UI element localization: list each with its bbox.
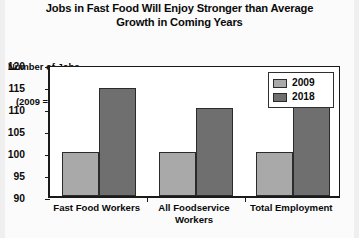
x-axis-label-total-employment: Total Employment [243, 202, 340, 214]
chart-title-line-2: Growth in Coming Years [0, 16, 359, 30]
bar-2018-all-foodservice-workers [196, 108, 233, 196]
bar-2009-all-foodservice-workers [159, 152, 196, 196]
legend-item-2018: 2018 [273, 90, 329, 104]
y-tick-label-100: 100 [0, 150, 25, 160]
legend-item-2009: 2009 [273, 76, 329, 90]
legend-label-2018: 2018 [292, 92, 315, 102]
x-axis-label-line: Fast Food Workers [48, 202, 145, 214]
y-tick-label-95: 95 [0, 172, 25, 182]
y-tick-label-105: 105 [0, 128, 25, 138]
bar-2018-fast-food-workers [99, 88, 136, 196]
legend-swatch-2018 [273, 93, 287, 102]
bar-2009-fast-food-workers [62, 152, 99, 196]
y-tick-90 [45, 199, 50, 200]
legend: 2009 2018 [268, 72, 334, 108]
x-axis-label-line: All Foodservice [145, 202, 242, 214]
page-edge-right [354, 0, 359, 238]
chart-title: Jobs in Fast Food Will Enjoy Stronger th… [0, 2, 359, 29]
bar-2018-total-employment [293, 106, 330, 196]
legend-label-2009: 2009 [292, 78, 315, 88]
y-tick-label-115: 115 [0, 84, 25, 94]
legend-swatch-2009 [273, 79, 287, 88]
x-axis-label-line: Workers [145, 214, 242, 226]
x-axis-label-all-foodservice-workers: All FoodserviceWorkers [145, 202, 242, 225]
y-tick-label-120: 120 [0, 62, 25, 72]
y-tick-label-90: 90 [0, 194, 25, 204]
y-tick-label-110: 110 [0, 106, 25, 116]
x-axis-label-line: Total Employment [243, 202, 340, 214]
chart-title-line-1: Jobs in Fast Food Will Enjoy Stronger th… [0, 2, 359, 16]
x-axis-label-fast-food-workers: Fast Food Workers [48, 202, 145, 214]
bar-2009-total-employment [256, 152, 293, 196]
chart-page: Jobs in Fast Food Will Enjoy Stronger th… [0, 0, 359, 238]
